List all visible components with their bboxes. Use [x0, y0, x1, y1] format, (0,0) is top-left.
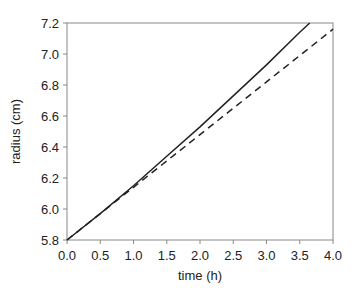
x-tick-label: 2.0: [191, 248, 209, 263]
dashed-line: [67, 29, 333, 240]
x-tick-label: 0.5: [91, 248, 109, 263]
y-tick-label: 7.0: [41, 47, 59, 62]
solid-line: [67, 23, 310, 240]
y-tick-label: 6.4: [41, 140, 59, 155]
line-chart: 0.00.51.01.52.02.53.03.54.0 5.86.06.26.4…: [0, 0, 357, 302]
y-tick-label: 7.2: [41, 16, 59, 31]
y-axis: 5.86.06.26.46.66.87.07.2: [41, 16, 67, 248]
x-tick-label: 1.0: [124, 248, 142, 263]
x-axis-label: time (h): [178, 268, 222, 283]
x-tick-label: 3.5: [291, 248, 309, 263]
y-tick-label: 6.8: [41, 78, 59, 93]
y-tick-label: 5.8: [41, 233, 59, 248]
y-tick-label: 6.0: [41, 202, 59, 217]
x-tick-label: 3.0: [257, 248, 275, 263]
x-tick-label: 1.5: [158, 248, 176, 263]
y-axis-label: radius (cm): [8, 99, 23, 164]
x-tick-label: 4.0: [324, 248, 342, 263]
x-axis: 0.00.51.01.52.02.53.03.54.0: [58, 240, 342, 263]
series-lines: [67, 23, 333, 240]
y-tick-label: 6.6: [41, 109, 59, 124]
x-tick-label: 2.5: [224, 248, 242, 263]
x-tick-label: 0.0: [58, 248, 76, 263]
y-tick-label: 6.2: [41, 171, 59, 186]
